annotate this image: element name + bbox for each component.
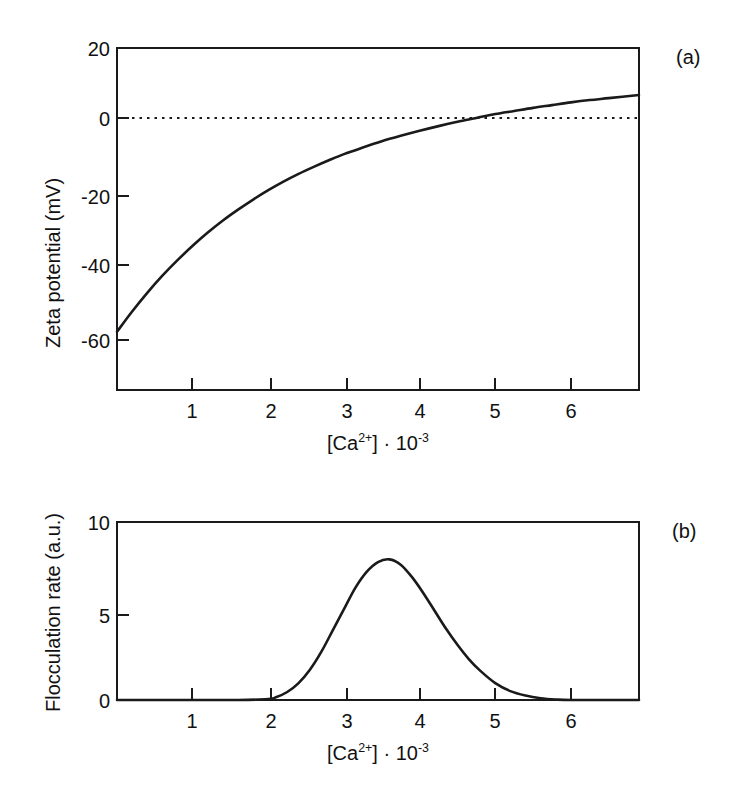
x-tick-label-b-0: 1 <box>186 710 197 732</box>
x-axis-title-b-text: [Ca2+] · 10-3 <box>327 742 429 764</box>
flocculation-rate-curve <box>117 559 639 700</box>
y-tick-label-b-1: 5 <box>99 605 110 627</box>
x-axis-title-b: [Ca2+] · 10-3 <box>258 742 498 765</box>
panel-tag-b: (b) <box>672 520 696 543</box>
x-axis-tick-labels-a: 1 2 3 4 5 6 <box>186 400 576 422</box>
plot-frame-b <box>117 522 639 700</box>
x-axis-tick-labels-b: 1 2 3 4 5 6 <box>186 710 576 732</box>
y-tick-label-a-4: -60 <box>81 330 110 352</box>
plot-frame-a <box>117 48 639 390</box>
y-tick-label-a-3: -40 <box>81 255 110 277</box>
y-tick-label-a-2: -20 <box>81 186 110 208</box>
y-axis-title-a: Zeta potential (mV) <box>42 178 65 348</box>
x-axis-ticks-a <box>192 378 571 390</box>
y-axis-tick-labels-a: 20 0 -20 -40 -60 <box>81 38 110 352</box>
y-tick-label-b-0: 10 <box>88 512 110 534</box>
x-tick-label-b-4: 5 <box>489 710 500 732</box>
x-tick-label-a-3: 4 <box>414 400 425 422</box>
y-axis-tick-labels-b: 10 5 0 <box>88 512 110 712</box>
y-axis-ticks-a <box>117 118 129 340</box>
x-tick-label-a-0: 1 <box>186 400 197 422</box>
panel-b: 10 5 0 1 2 3 4 5 6 <box>0 450 745 802</box>
y-axis-title-b: Flocculation rate (a.u.) <box>42 513 65 712</box>
x-tick-label-a-5: 6 <box>565 400 576 422</box>
panel-a: 20 0 -20 -40 -60 1 2 3 4 5 <box>0 0 745 450</box>
x-tick-label-a-1: 2 <box>265 400 276 422</box>
x-tick-label-b-1: 2 <box>265 710 276 732</box>
y-tick-label-a-1: 0 <box>99 108 110 130</box>
x-tick-label-b-2: 3 <box>341 710 352 732</box>
x-tick-label-a-4: 5 <box>489 400 500 422</box>
figure-container: 20 0 -20 -40 -60 1 2 3 4 5 <box>0 0 745 802</box>
zeta-potential-curve <box>117 95 639 332</box>
y-tick-label-a-0: 20 <box>88 38 110 60</box>
panel-tag-a: (a) <box>676 46 700 69</box>
x-tick-label-a-2: 3 <box>341 400 352 422</box>
y-tick-label-b-2: 0 <box>99 690 110 712</box>
x-tick-label-b-5: 6 <box>565 710 576 732</box>
x-tick-label-b-3: 4 <box>414 710 425 732</box>
x-axis-ticks-b <box>192 688 571 700</box>
panel-a-plot: 20 0 -20 -40 -60 1 2 3 4 5 <box>0 0 745 450</box>
